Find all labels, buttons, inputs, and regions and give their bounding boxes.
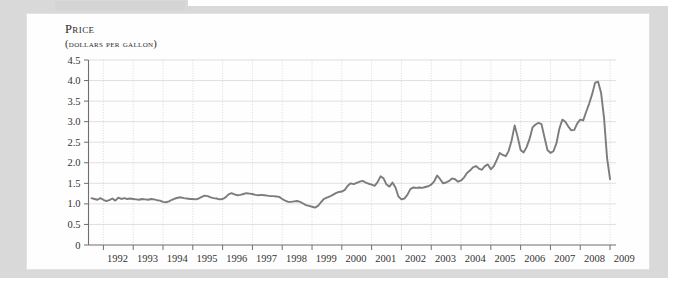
svg-text:1993: 1993	[137, 253, 158, 264]
svg-text:1997: 1997	[256, 253, 277, 264]
svg-text:2004: 2004	[465, 253, 487, 264]
svg-text:2007: 2007	[554, 253, 575, 264]
svg-text:1998: 1998	[286, 253, 307, 264]
svg-text:2002: 2002	[405, 253, 426, 264]
svg-text:2001: 2001	[375, 253, 396, 264]
y-axis-ticks	[84, 60, 89, 245]
horizontal-gridlines	[89, 60, 617, 224]
svg-text:3.5: 3.5	[67, 96, 80, 107]
svg-text:3.0: 3.0	[67, 116, 80, 127]
line-chart-svg: 00.51.01.52.02.53.03.54.04.5 19921993199…	[0, 0, 682, 292]
svg-text:2000: 2000	[346, 253, 367, 264]
svg-text:1.5: 1.5	[67, 178, 80, 189]
svg-text:1992: 1992	[107, 253, 128, 264]
svg-text:2005: 2005	[495, 253, 516, 264]
plot-area: 00.51.01.52.02.53.03.54.04.5 19921993199…	[0, 0, 682, 292]
svg-text:2.5: 2.5	[67, 137, 80, 148]
y-axis-labels: 00.51.01.52.02.53.03.54.04.5	[67, 55, 80, 251]
svg-text:2006: 2006	[524, 253, 545, 264]
svg-text:0: 0	[75, 240, 80, 251]
price-series-line	[91, 82, 610, 208]
svg-text:2009: 2009	[614, 253, 635, 264]
svg-text:1999: 1999	[316, 253, 337, 264]
x-axis-labels: 1992199319941995199619971998199920002001…	[107, 253, 635, 264]
svg-text:2003: 2003	[435, 253, 456, 264]
svg-text:2008: 2008	[584, 253, 605, 264]
svg-text:0.5: 0.5	[67, 219, 80, 230]
svg-text:4.0: 4.0	[67, 75, 80, 86]
svg-text:1995: 1995	[197, 253, 218, 264]
screenshot-root: Price (dollars per gallon) 00.51.01.52.0…	[0, 0, 682, 292]
svg-text:2.0: 2.0	[67, 157, 80, 168]
svg-text:4.5: 4.5	[67, 55, 80, 66]
x-axis-ticks	[103, 245, 610, 250]
svg-text:1.0: 1.0	[67, 198, 80, 209]
svg-text:1994: 1994	[167, 253, 189, 264]
vertical-gridlines	[103, 60, 610, 245]
svg-text:1996: 1996	[226, 253, 247, 264]
